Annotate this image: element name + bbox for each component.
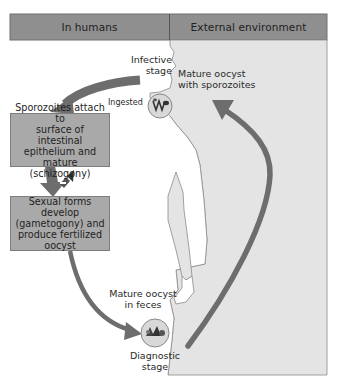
- oocyst-with-sporozoites-icon: [148, 94, 172, 118]
- infective-stage-line-1: Infective: [120, 54, 172, 65]
- mature-oocyst-sporozoites-line-2: with sporozoites: [178, 79, 255, 90]
- mature-oocyst-feces-line-1: Mature oocyst: [108, 288, 178, 299]
- header-external-environment: External environment: [170, 14, 327, 40]
- oocyst-in-feces-icon: [141, 319, 169, 347]
- mature-oocyst-feces-label: Mature oocyst in feces: [108, 288, 178, 310]
- mature-oocyst-feces-line-2: in feces: [108, 299, 178, 310]
- mature-oocyst-sporozoites-line-1: Mature oocyst: [178, 68, 255, 79]
- life-cycle-diagram: In humans External environment Infective…: [0, 0, 339, 384]
- gametogony-box: Sexual forms develop (gametogony) and pr…: [10, 196, 110, 251]
- header-in-humans: In humans: [10, 14, 169, 40]
- gametogony-line-1: Sexual forms develop: [13, 196, 107, 218]
- excretion-arrowhead: [124, 322, 142, 340]
- ingested-label: Ingested: [108, 97, 143, 108]
- schizogony-line-2: surface of intestinal: [13, 124, 107, 146]
- infective-stage-label: Infective stage: [120, 54, 172, 76]
- diagnostic-stage-label: Diagnostic stage: [122, 350, 188, 372]
- infective-stage-line-2: stage: [120, 65, 172, 76]
- schizogony-box: Sporozoites attach to surface of intesti…: [10, 113, 110, 167]
- gametogony-line-2: (gametogony) and: [13, 218, 107, 229]
- gametogony-line-3: produce fertilized: [13, 229, 107, 240]
- mature-oocyst-sporozoites-label: Mature oocyst with sporozoites: [178, 68, 255, 90]
- diagnostic-stage-line-2: stage: [122, 361, 188, 372]
- schizogony-line-3: epithelium and mature: [13, 146, 107, 168]
- schizogony-line-4: (schizogony): [13, 168, 107, 179]
- diagnostic-stage-line-1: Diagnostic: [122, 350, 188, 361]
- gametogony-line-4: oocyst: [13, 240, 107, 251]
- schizogony-line-1: Sporozoites attach to: [13, 102, 107, 124]
